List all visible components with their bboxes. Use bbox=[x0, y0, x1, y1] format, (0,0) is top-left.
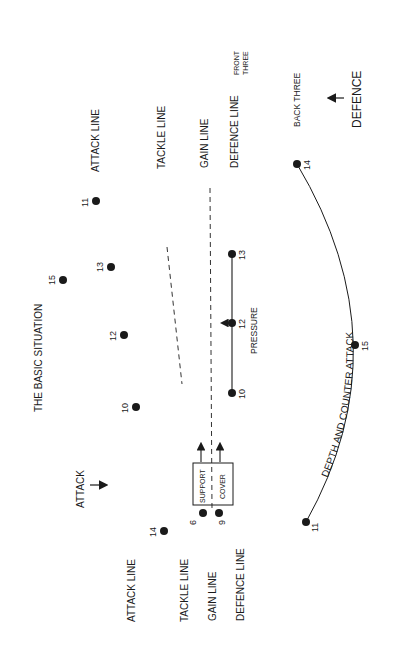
label-gain-line-bottom: GAIN LINE bbox=[207, 571, 218, 621]
label-defence-line-top: DEFENCE LINE bbox=[229, 95, 240, 168]
defence-player-13: 13 bbox=[228, 250, 247, 260]
player-number: 15 bbox=[47, 275, 57, 285]
player-number: 12 bbox=[108, 331, 118, 341]
attack-player-6: 6 bbox=[188, 509, 207, 525]
defence-player-10: 10 bbox=[228, 389, 247, 399]
attack-player-11: 11 bbox=[80, 197, 100, 207]
label-defence-direction: DEFENCE bbox=[350, 71, 364, 128]
player-number: 13 bbox=[237, 250, 247, 260]
defence-player-12: 12 bbox=[228, 319, 247, 329]
label-depth-counter-attack: DEPTH AND COUNTER ATTACK bbox=[319, 331, 355, 478]
attack-player-13: 13 bbox=[95, 262, 115, 272]
tackle-line-dashed bbox=[167, 247, 182, 384]
rugby-diagram-canvas: THE BASIC SITUATION ATTACK LINE TACKLE L… bbox=[0, 0, 393, 651]
player-number: 11 bbox=[80, 198, 90, 207]
label-pressure: PRESSURE bbox=[249, 307, 259, 354]
label-tackle-line-top: TACKLE LINE bbox=[156, 106, 167, 169]
player-number: 11 bbox=[310, 523, 320, 532]
diagram-title: THE BASIC SITUATION bbox=[33, 304, 44, 412]
defence-player-14: 14 bbox=[293, 160, 312, 170]
attack-player-10: 10 bbox=[120, 403, 140, 413]
curve-label-path: DEPTH AND COUNTER ATTACK bbox=[319, 331, 355, 478]
label-back-three: BACK THREE bbox=[292, 73, 302, 127]
label-attack-line-top: ATTACK LINE bbox=[90, 109, 101, 172]
attack-player-12: 12 bbox=[108, 331, 128, 341]
attack-player-14: 14 bbox=[148, 527, 168, 537]
attack-player-15: 15 bbox=[47, 275, 67, 285]
player-number: 14 bbox=[148, 527, 158, 537]
label-front-three-1: FRONT bbox=[233, 50, 240, 75]
label-gain-line-top: GAIN LINE bbox=[199, 118, 210, 168]
player-number: 6 bbox=[188, 520, 198, 525]
label-tackle-line-bottom: TACKLE LINE bbox=[179, 559, 190, 622]
label-support: SUPPORT bbox=[199, 469, 206, 503]
gain-line-dashed bbox=[210, 188, 212, 510]
player-number: 10 bbox=[120, 403, 130, 413]
label-cover: COVER bbox=[219, 474, 226, 499]
player-number: 15 bbox=[360, 341, 370, 351]
label-front-three-2: THREE bbox=[242, 51, 249, 75]
player-number: 9 bbox=[217, 520, 227, 525]
player-number: 13 bbox=[95, 262, 105, 272]
label-attack-line-bottom: ATTACK LINE bbox=[126, 559, 137, 622]
defence-player-11: 11 bbox=[302, 518, 320, 532]
player-number: 10 bbox=[237, 389, 247, 399]
player-number: 12 bbox=[237, 319, 247, 329]
player-number: 14 bbox=[302, 160, 312, 170]
attack-player-9: 9 bbox=[215, 509, 227, 525]
label-defence-line-bottom: DEFENCE LINE bbox=[235, 548, 246, 621]
label-attack-direction: ATTACK bbox=[75, 470, 86, 508]
